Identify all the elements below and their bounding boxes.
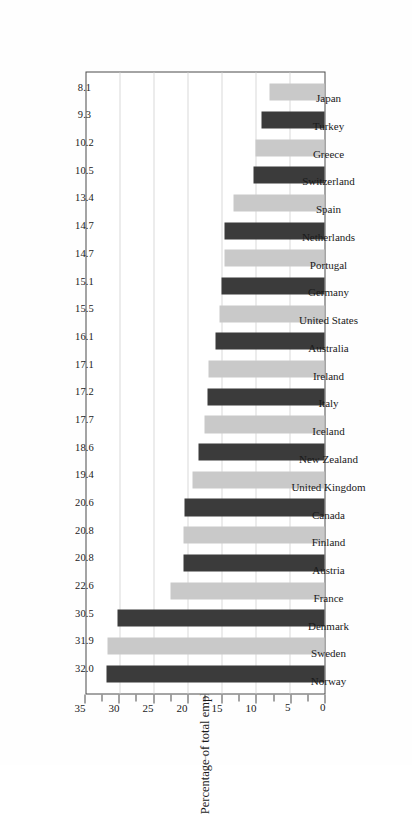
category-slot: Denmark (327, 605, 379, 633)
bar-value-label: 9.3 (78, 108, 91, 119)
category-label: France (314, 591, 344, 603)
category-label: Italy (318, 396, 338, 408)
bar-slot: 17.1 (87, 355, 325, 383)
bar-slot: 16.1 (87, 327, 325, 355)
figure-stage: 05101520253035 Percentage of total emplo… (34, 71, 379, 694)
category-labels: NorwaySwedenDenmarkFranceAustriaFinlandC… (327, 77, 379, 688)
bar-slot: 10.5 (87, 161, 325, 189)
axis-tick-label: 10 (245, 701, 256, 713)
plot-area: 32.031.930.522.620.820.820.619.418.617.7… (86, 71, 326, 694)
bar-slot: 17.2 (87, 382, 325, 410)
bar-value-label: 30.5 (75, 607, 94, 618)
bar: 20.8 (183, 554, 324, 571)
axis-tick: 25 (153, 694, 154, 703)
bar-slot: 14.7 (87, 216, 325, 244)
bar-slot: 10.2 (87, 133, 325, 161)
bar-value-label: 8.1 (78, 81, 91, 92)
bar-value-label: 14.7 (75, 219, 94, 230)
bar-value-label: 10.5 (75, 164, 94, 175)
bar-value-label: 13.4 (75, 191, 94, 202)
bar-value-label: 14.7 (75, 247, 94, 258)
category-slot: Greece (327, 133, 379, 161)
bar: 20.6 (184, 498, 324, 515)
category-label: Austria (312, 563, 344, 575)
category-label: Iceland (312, 424, 344, 436)
category-label: Norway (311, 674, 346, 686)
bar-slot: 9.3 (87, 106, 325, 134)
category-label: New Zealand (299, 452, 358, 464)
bar: 30.5 (117, 609, 324, 626)
bar-slot: 14.7 (87, 244, 325, 272)
category-label: Netherlands (302, 230, 355, 242)
bar-slot: 15.1 (87, 272, 325, 300)
axis-tick (136, 694, 137, 701)
category-label: Japan (316, 91, 341, 103)
bar-slot: 15.5 (87, 299, 325, 327)
axis-tick-label: 25 (143, 701, 154, 713)
axis-tick-label: 35 (74, 701, 85, 713)
category-slot: United Kingdom (327, 466, 379, 494)
bar-value-label: 16.1 (75, 330, 94, 341)
bar-slot: 31.9 (87, 632, 325, 660)
bar-value-label: 17.2 (75, 385, 94, 396)
category-slot: France (327, 577, 379, 605)
bar-series: 32.031.930.522.620.820.820.619.418.617.7… (87, 78, 325, 687)
category-slot: Sweden (327, 632, 379, 660)
category-label: Sweden (311, 646, 346, 658)
bar-slot: 22.6 (87, 576, 325, 604)
axis-tick (205, 694, 206, 701)
axis-tick: 15 (222, 694, 223, 703)
bar-slot: 20.6 (87, 493, 325, 521)
bar-value-label: 18.6 (75, 441, 94, 452)
category-label: Greece (313, 147, 344, 159)
bar-slot: 13.4 (87, 189, 325, 217)
category-label: Denmark (308, 619, 349, 631)
axis-tick: 35 (85, 694, 86, 703)
bar-slot: 8.1 (87, 78, 325, 106)
bar-value-label: 15.1 (75, 275, 94, 286)
category-label: Germany (308, 285, 349, 297)
bar-value-label: 20.8 (75, 524, 94, 535)
plot-frame: 32.031.930.522.620.820.820.619.418.617.7… (86, 71, 326, 694)
category-slot: Spain (327, 188, 379, 216)
axis-tick: 20 (187, 694, 188, 703)
category-label: Turkey (313, 119, 344, 131)
bar: 17.7 (204, 415, 324, 432)
category-slot: Netherlands (327, 216, 379, 244)
page-folio: i (204, 751, 207, 761)
category-slot: Switzerland (327, 160, 379, 188)
axis-tick (170, 694, 171, 701)
category-slot: Italy (327, 383, 379, 411)
category-slot: Germany (327, 272, 379, 300)
category-label: Finland (312, 535, 346, 547)
bar-slot: 17.7 (87, 410, 325, 438)
bar-value-label: 17.1 (75, 358, 94, 369)
category-label: United States (299, 313, 358, 325)
bar-value-label: 19.4 (75, 468, 94, 479)
bar-value-label: 32.0 (75, 662, 94, 673)
bar: 20.8 (183, 526, 324, 543)
bar-slot: 30.5 (87, 604, 325, 632)
bar-value-label: 22.6 (75, 579, 94, 590)
bar: 31.9 (108, 637, 325, 654)
category-slot: Norway (327, 660, 379, 688)
category-slot: Japan (327, 77, 379, 105)
category-slot: Portugal (327, 244, 379, 272)
category-slot: Australia (327, 327, 379, 355)
axis-tick: 10 (256, 694, 257, 703)
axis-tick-label: 5 (285, 701, 291, 713)
axis-tick: 0 (325, 694, 326, 703)
category-slot: Turkey (327, 105, 379, 133)
bar-slot: 20.8 (87, 549, 325, 577)
bar-value-label: 31.9 (75, 634, 94, 645)
axis-tick (273, 694, 274, 701)
category-label: Spain (316, 202, 341, 214)
axis-tick (307, 694, 308, 701)
axis-tick-label: 20 (177, 701, 188, 713)
axis-tick-label: 30 (108, 701, 119, 713)
category-label: Canada (312, 508, 345, 520)
category-label: Ireland (313, 369, 344, 381)
bar: 32.0 (107, 665, 325, 682)
bar-value-label: 10.2 (75, 136, 94, 147)
